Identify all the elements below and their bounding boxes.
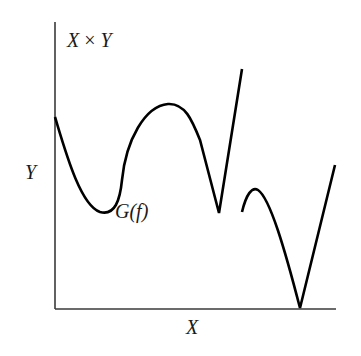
graph-curve-second-branch — [242, 165, 335, 308]
function-graph-diagram: X × Y Y X G(f) — [0, 0, 361, 356]
graph-label: G(f) — [115, 201, 148, 221]
product-space-left: X — [67, 29, 79, 51]
x-axis-label: X — [186, 317, 198, 337]
product-operator: × — [84, 29, 95, 51]
product-space-label: X × Y — [67, 30, 112, 50]
product-space-right: Y — [101, 29, 112, 51]
y-axis-label: Y — [25, 162, 36, 182]
graph-curve-first-branch — [55, 69, 242, 213]
diagram-canvas — [0, 0, 361, 356]
